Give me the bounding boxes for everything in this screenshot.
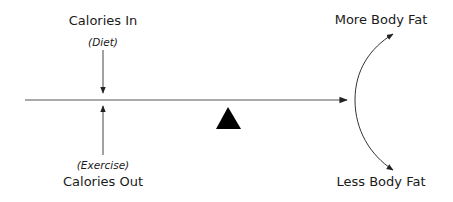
more-body-fat-label: More Body Fat xyxy=(335,12,428,27)
calories-out-label: Calories Out xyxy=(63,174,143,189)
fulcrum-triangle-icon xyxy=(216,107,241,129)
diet-label: (Diet) xyxy=(88,36,118,48)
outcome-curved-arrow-icon xyxy=(355,34,393,170)
calories-in-label: Calories In xyxy=(69,13,138,28)
energy-balance-diagram xyxy=(0,0,453,202)
exercise-label: (Exercise) xyxy=(77,159,129,171)
less-body-fat-label: Less Body Fat xyxy=(337,174,426,189)
